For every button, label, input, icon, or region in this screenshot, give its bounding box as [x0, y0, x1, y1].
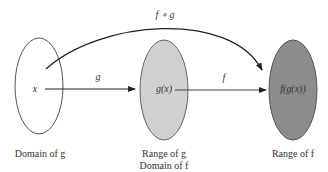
- element-x: x: [30, 83, 40, 94]
- element-fgx: f(g(x)): [270, 83, 316, 94]
- arrow-f-label: f: [218, 72, 230, 83]
- arrow-g-label: g: [92, 71, 104, 82]
- caption-domain-g: Domain of g: [0, 148, 80, 159]
- arrow-compose-label: f ∘ g: [150, 9, 180, 20]
- element-gx: g(x): [146, 83, 182, 94]
- caption-range-g: Range of g: [124, 148, 204, 159]
- caption-range-f: Range of f: [253, 148, 328, 159]
- caption-domain-f: Domain of f: [124, 160, 204, 171]
